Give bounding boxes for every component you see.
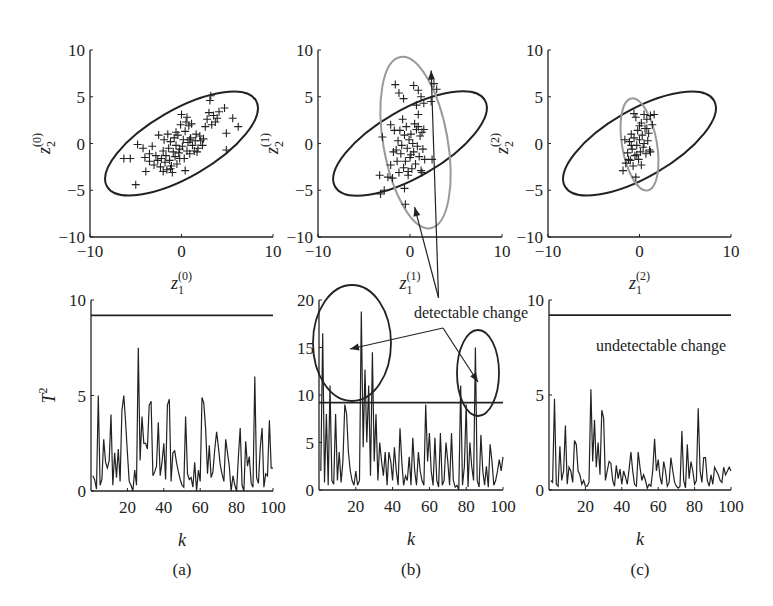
highlight-ellipse-left [313, 285, 391, 401]
scatter-panel-b: −10−50510−10010z1(1)z2(1) [258, 41, 511, 298]
data-point [145, 157, 153, 165]
y-tick-label: 5 [536, 386, 545, 405]
data-point [221, 104, 229, 112]
data-point [222, 129, 230, 137]
data-point [395, 168, 403, 176]
data-point [376, 171, 384, 179]
data-point [634, 126, 642, 134]
x-tick-label: 100 [260, 498, 286, 517]
data-point [387, 121, 395, 129]
arrowhead-icon [470, 373, 478, 382]
ellipse [614, 95, 664, 193]
x-tick-label: −10 [305, 242, 332, 261]
data-point [625, 138, 633, 146]
y-tick-label: 0 [77, 135, 86, 154]
undetectable-change-label: undetectable change [596, 337, 726, 355]
y-tick-label: −5 [67, 181, 85, 200]
y-tick-label: 0 [535, 135, 544, 154]
x-tick-label: 0 [635, 242, 644, 261]
data-point [142, 168, 150, 176]
data-point [412, 160, 420, 168]
data-point [394, 137, 402, 145]
data-point [400, 164, 408, 172]
caption-c: (c) [631, 560, 650, 579]
x-tick-label: 0 [406, 242, 415, 261]
y-axis-label: z2(2) [488, 133, 516, 155]
data-point [627, 141, 635, 149]
data-point [632, 113, 640, 121]
data-point [139, 144, 147, 152]
data-point [126, 154, 134, 162]
data-point [397, 150, 405, 158]
y-tick-label: 0 [306, 481, 315, 500]
scatter-panel-a: −10−50510−10010z1(0)z2(0) [30, 41, 282, 297]
x-tick-label: 60 [421, 497, 438, 516]
data-point [399, 115, 407, 123]
y-axis-label: z2(0) [30, 133, 58, 155]
data-point [400, 95, 408, 103]
arrowhead-icon [414, 207, 421, 217]
x-tick-label: 40 [613, 497, 630, 516]
data-point [215, 108, 223, 116]
x-tick-label: 20 [577, 497, 594, 516]
x-tick-label: 0 [177, 242, 186, 261]
data-point [400, 131, 408, 139]
x-tick-label: 10 [265, 242, 282, 261]
data-point [171, 153, 179, 161]
data-point [148, 142, 156, 150]
x-tick-label: 80 [686, 497, 703, 516]
data-point [630, 110, 638, 118]
x-tick-label: 40 [155, 498, 172, 517]
data-point [410, 82, 418, 90]
y-tick-label: 10 [69, 291, 86, 310]
x-tick-label: −10 [77, 242, 104, 261]
data-point [134, 140, 142, 148]
t2-panel-a: 051020406080100kT2 [36, 291, 286, 550]
data-point [393, 157, 401, 165]
data-point [145, 150, 153, 158]
y-tick-label: 10 [297, 386, 314, 405]
data-point [650, 111, 658, 119]
data-point [646, 148, 654, 156]
data-point [418, 168, 426, 176]
data-point [203, 115, 211, 123]
data-point [222, 146, 230, 154]
ellipse [369, 51, 463, 233]
data-point [391, 81, 399, 89]
arrowhead-icon [428, 71, 435, 80]
x-tick-label: 80 [458, 497, 475, 516]
x-tick-label: 20 [347, 497, 364, 516]
x-axis-label: z1(2) [628, 269, 650, 297]
y-tick-label: 10 [296, 41, 313, 60]
x-axis-label: z1(1) [398, 269, 420, 297]
data-point [155, 131, 163, 139]
x-tick-label: 60 [192, 498, 209, 517]
y-axis-label: T2 [36, 387, 59, 403]
data-point [396, 126, 404, 134]
t2-series-line [93, 348, 273, 491]
x-tick-label: 100 [718, 497, 744, 516]
data-point [141, 154, 149, 162]
data-point [164, 130, 172, 138]
data-point [201, 123, 209, 131]
x-axis-label: z1(0) [170, 269, 192, 297]
y-tick-label: 0 [78, 482, 87, 501]
t2-panel-c: 051020406080100k [527, 291, 744, 549]
arrowhead-icon [350, 344, 360, 351]
ellipse [90, 71, 273, 215]
y-tick-label: 0 [305, 135, 314, 154]
svg-text:z2(0): z2(0) [30, 133, 58, 155]
data-point [619, 167, 627, 175]
data-point [167, 138, 175, 146]
data-point [378, 133, 386, 141]
data-point [166, 156, 174, 164]
data-point [192, 130, 200, 138]
y-tick-label: 5 [535, 88, 544, 107]
data-point [648, 121, 656, 129]
svg-text:z2(1): z2(1) [258, 133, 286, 155]
y-tick-label: 0 [536, 481, 545, 500]
data-point [414, 111, 422, 119]
arrow [431, 71, 438, 298]
data-point [206, 96, 214, 104]
data-point [207, 92, 215, 100]
